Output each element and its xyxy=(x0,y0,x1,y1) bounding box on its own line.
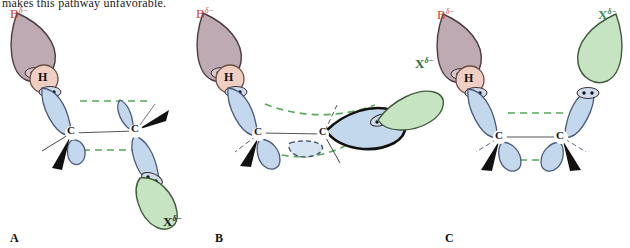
base-label-c: Bδ− xyxy=(437,7,455,23)
carbon-right-label-c: C xyxy=(556,129,564,141)
electron-pair-c-x-c xyxy=(577,88,599,99)
carbon-left-label-c: C xyxy=(495,129,503,141)
leaving-group-orbital-c xyxy=(578,14,622,83)
diagram-canvas: makes this pathway unfavorable. xyxy=(0,0,630,248)
hydrogen-label-c: H xyxy=(464,71,473,86)
carbon-right-wedge-c xyxy=(563,141,581,171)
carbon-left-wedge-c xyxy=(481,141,499,171)
carbon-left-lower-lobe-c xyxy=(499,142,521,171)
panel-label-c: C xyxy=(445,231,454,246)
carbon-right-lower-lobe-c xyxy=(541,142,563,171)
leaving-group-label-c: Xδ− xyxy=(598,7,616,23)
panel-c-graphic xyxy=(0,0,630,248)
carbon-left-upper-lobe-c xyxy=(468,89,497,137)
